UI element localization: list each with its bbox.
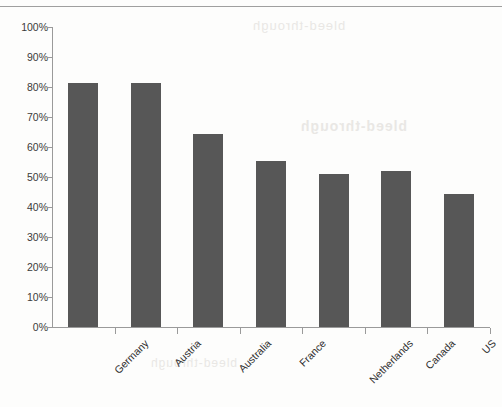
x-axis-category-label: US bbox=[479, 337, 498, 356]
y-axis-tick-label: 90% bbox=[4, 51, 48, 63]
y-axis-tick-label: 70% bbox=[4, 111, 48, 123]
y-axis-tick-label: 30% bbox=[4, 231, 48, 243]
y-axis-tick-label: 50% bbox=[4, 171, 48, 183]
y-axis-tick-label: 10% bbox=[4, 291, 48, 303]
bar bbox=[193, 134, 223, 328]
x-axis-tick-mark bbox=[177, 328, 178, 334]
x-axis-tick-mark bbox=[115, 328, 116, 334]
x-axis-tick-mark bbox=[302, 328, 303, 334]
x-axis-category-label: Austria bbox=[171, 337, 203, 369]
x-axis-category-label: Australia bbox=[236, 337, 273, 374]
y-axis-tick-labels: 100%90%80%70%60%50%40%30%20%10%0% bbox=[4, 0, 48, 407]
y-axis-tick-label: 0% bbox=[4, 321, 48, 333]
y-axis-tick-label: 80% bbox=[4, 81, 48, 93]
bar-chart-plot-area: 100%90%80%70%60%50%40%30%20%10%0% German… bbox=[0, 0, 502, 407]
x-axis-tick-mark bbox=[490, 328, 491, 334]
x-axis-line bbox=[52, 327, 490, 328]
x-axis-category-label: Germany bbox=[112, 337, 151, 376]
x-axis-category-label: Netherlands bbox=[366, 337, 415, 386]
x-axis-tick-mark bbox=[240, 328, 241, 334]
y-axis-tick-label: 100% bbox=[4, 21, 48, 33]
bar bbox=[444, 194, 474, 328]
x-axis-category-label: France bbox=[297, 337, 329, 369]
bar bbox=[256, 161, 286, 328]
y-axis-tick-label: 60% bbox=[4, 141, 48, 153]
x-axis-tick-mark bbox=[365, 328, 366, 334]
x-axis-tick-mark bbox=[427, 328, 428, 334]
bar bbox=[319, 174, 349, 327]
bar bbox=[68, 83, 98, 328]
bar bbox=[381, 171, 411, 327]
y-axis-line bbox=[52, 27, 53, 328]
y-axis-tick-label: 40% bbox=[4, 201, 48, 213]
bar bbox=[131, 83, 161, 328]
y-axis-tick-label: 20% bbox=[4, 261, 48, 273]
chart-page: bleed-through bleed-through bleed-throug… bbox=[0, 0, 502, 407]
x-axis-category-label: Canada bbox=[423, 337, 457, 371]
